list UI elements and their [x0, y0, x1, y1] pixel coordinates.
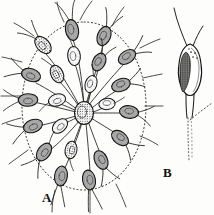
- flagella-b: [174, 8, 203, 46]
- panel-a-label: A: [42, 190, 52, 206]
- colony-hub-cell: [75, 102, 94, 125]
- panel-a: [1, 0, 163, 213]
- panel-b: [174, 8, 212, 160]
- figure-canvas: [0, 0, 214, 215]
- panel-b-label: B: [163, 165, 172, 181]
- figure-plate: A B: [0, 0, 214, 215]
- stalk-b: [186, 94, 194, 160]
